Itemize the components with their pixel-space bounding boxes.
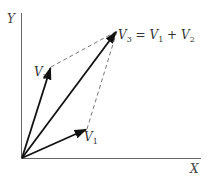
eq-t2-name: V — [181, 28, 190, 42]
eq-t1-sub: 1 — [158, 35, 163, 44]
y-axis-label: Y — [7, 13, 15, 25]
v1-label: V1 — [84, 131, 98, 146]
eq-lhs-sub: 3 — [127, 35, 132, 44]
dashed-v2-to-v3 — [51, 31, 117, 67]
vector-v3-arrow — [22, 32, 116, 158]
eq-lhs-name: V — [118, 28, 127, 42]
v1-label-sub: 1 — [93, 137, 98, 146]
eq-t2-sub: 2 — [190, 35, 195, 44]
v2-label-name: V — [34, 65, 43, 79]
x-axis-label: X — [190, 163, 199, 175]
eq-t1-name: V — [149, 28, 158, 42]
eq-equals: = — [136, 28, 146, 42]
vector-v2-arrow — [22, 68, 51, 158]
v2-label-sub: 2 — [43, 72, 48, 81]
dashed-v1-to-v3 — [87, 31, 117, 129]
v3-equation-label: V3 = V1 + V2 — [118, 29, 195, 44]
eq-plus: + — [167, 28, 177, 42]
v2-label: V2 — [34, 66, 48, 81]
v1-label-name: V — [84, 130, 93, 144]
